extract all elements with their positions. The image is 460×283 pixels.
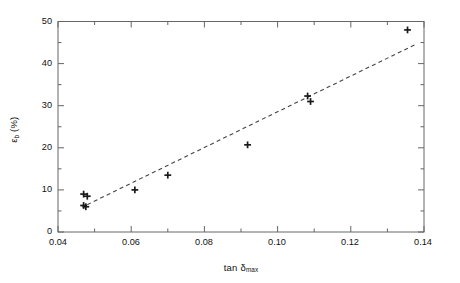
y-tick-label: 20 <box>26 142 52 152</box>
x-tick-label: 0.08 <box>186 237 222 247</box>
scatter-plot-figure: εb (%) tan δmax 50 40 30 20 10 0 0.04 0.… <box>0 0 460 283</box>
y-axis-label-symbol: ε <box>8 138 19 142</box>
data-points <box>80 27 411 211</box>
axis-ticks <box>58 22 424 233</box>
data-point-marker <box>131 187 138 194</box>
trendline-segment <box>87 44 416 204</box>
y-tick-label: 10 <box>26 184 52 194</box>
x-tick-label: 0.06 <box>113 237 149 247</box>
data-point-marker <box>164 172 171 179</box>
trendline <box>87 44 416 204</box>
y-axis-label-unit: (%) <box>8 117 19 135</box>
x-tick-label: 0.14 <box>405 237 441 247</box>
y-tick-label: 50 <box>26 16 52 26</box>
y-tick-label: 30 <box>26 100 52 110</box>
y-tick-label: 40 <box>26 58 52 68</box>
x-tick-label: 0.12 <box>332 237 368 247</box>
x-axis-label: tan δmax <box>196 262 286 273</box>
x-axis-label-subscript: max <box>246 266 258 273</box>
x-tick-label: 0.04 <box>40 237 76 247</box>
data-point-marker <box>404 27 411 34</box>
y-axis-label: εb (%) <box>8 102 19 158</box>
y-tick-label: 0 <box>26 226 52 236</box>
data-point-marker <box>244 141 251 148</box>
plot-frame <box>58 22 424 233</box>
x-tick-label: 0.10 <box>259 237 295 247</box>
x-axis-label-text: tan δ <box>224 262 246 273</box>
y-axis-label-subscript: b <box>13 135 20 139</box>
